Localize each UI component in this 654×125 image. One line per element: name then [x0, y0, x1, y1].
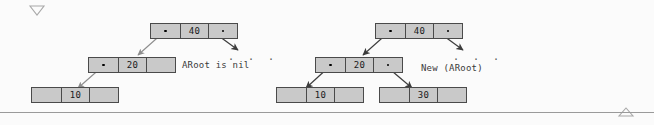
- node-30-left-nil: [380, 88, 409, 102]
- caption-aroot-is-nil: ARoot is nil: [182, 61, 249, 70]
- node-40-key: 40: [180, 24, 208, 38]
- node-30-right-nil: [437, 88, 466, 102]
- node-20-right-pointer: [373, 58, 402, 72]
- node-10-right-nil: [89, 88, 118, 102]
- triangle-down-icon: [30, 6, 44, 15]
- node-40-left-pointer: [376, 24, 405, 38]
- ellipsis-after: . . .: [453, 52, 503, 62]
- diagram-canvas: 40 20 10 . . . ARoot is nil 40 20: [0, 0, 654, 125]
- node-20-left-pointer: [316, 58, 345, 72]
- node-20-before: 20: [88, 57, 176, 73]
- node-20-key: 20: [118, 58, 146, 72]
- pointer-dot-icon: [447, 30, 450, 33]
- node-40-left-pointer: [151, 24, 180, 38]
- pointer-dot-icon: [387, 64, 390, 67]
- node-10-left-nil: [32, 88, 61, 102]
- node-40-right-pointer: [433, 24, 462, 38]
- node-40-after: 40: [375, 23, 463, 39]
- pointer-dot-icon: [329, 64, 332, 67]
- caption-new-aroot: New (ARoot): [421, 64, 483, 73]
- node-10-key: 10: [306, 88, 334, 102]
- node-20-key: 20: [345, 58, 373, 72]
- node-30-after: 30: [379, 87, 467, 103]
- node-10-right-nil: [334, 88, 363, 102]
- pointer-dot-icon: [164, 30, 167, 33]
- pointer-dot-icon: [102, 64, 105, 67]
- footer-rule: [0, 112, 654, 113]
- node-10-key: 10: [61, 88, 89, 102]
- node-30-key: 30: [409, 88, 437, 102]
- node-10-left-nil: [277, 88, 306, 102]
- node-20-right-nil: [146, 58, 175, 72]
- node-40-before: 40: [150, 23, 238, 39]
- node-40-right-pointer: [208, 24, 237, 38]
- node-20-after: 20: [315, 57, 403, 73]
- node-40-key: 40: [405, 24, 433, 38]
- pointer-dot-icon: [222, 30, 225, 33]
- node-20-left-pointer: [89, 58, 118, 72]
- pointer-dot-icon: [389, 30, 392, 33]
- node-10-before: 10: [31, 87, 119, 103]
- node-10-after: 10: [276, 87, 364, 103]
